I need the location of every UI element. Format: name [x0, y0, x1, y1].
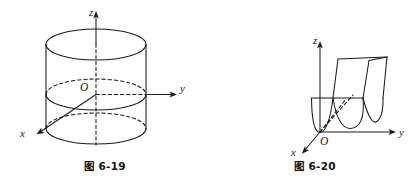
fig-6-20-y-axis-label: y: [398, 126, 404, 138]
fig-6-20-z-axis-label: z: [312, 34, 318, 46]
x-axis-arrowhead: [37, 128, 45, 135]
figure-6-20-caption-text: 图 6-20: [294, 160, 336, 172]
figure-6-19: z y x O 图 6-19: [0, 0, 210, 191]
figure-6-20: z y x O 图 6-20: [210, 0, 420, 191]
figure-6-19-caption: 图 6-19: [0, 158, 210, 173]
front-parabola-curve: [312, 98, 334, 132]
x-axis-arrowhead: [302, 146, 309, 154]
raised-surface-right-edge: [363, 61, 369, 99]
figure-sheet: z y x O 图 6-19: [0, 0, 420, 191]
fig-6-20-x-axis-label: x: [290, 146, 296, 158]
raised-surface-far-right-edge: [383, 57, 387, 98]
fig-6-19-y-axis-label: y: [179, 82, 185, 94]
figure-6-20-caption: 图 6-20: [210, 158, 420, 173]
raised-surface-left-edge: [333, 59, 338, 98]
back-parabola-lower-curve: [333, 98, 363, 129]
fig-6-19-z-axis-label: z: [88, 6, 94, 18]
hidden-axis-dashed-lower: [320, 99, 346, 132]
fig-6-19-x-axis-label: x: [19, 127, 25, 139]
fig-6-19-origin-label: O: [80, 81, 89, 93]
back-right-parabola-curve: [363, 98, 383, 122]
x-axis-line: [305, 132, 320, 150]
figure-6-19-caption-text: 图 6-19: [84, 160, 126, 172]
fig-6-20-origin-label: O: [320, 135, 329, 147]
